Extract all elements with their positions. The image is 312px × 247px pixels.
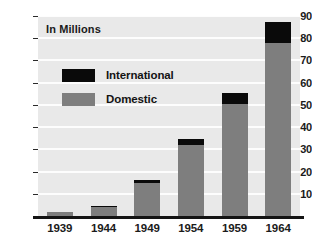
x-axis-tick-label-1964: 1964: [254, 222, 302, 234]
legend-item-domestic: Domestic: [62, 87, 174, 111]
bar-segment-domestic: [134, 183, 160, 216]
gridline: [38, 16, 300, 17]
bar-segment-domestic: [222, 104, 248, 216]
units-label: In Millions: [46, 23, 101, 35]
gridline: [38, 171, 300, 173]
bar-segment-international: [265, 22, 291, 43]
bar-1959: [222, 93, 248, 216]
legend-label-domestic: Domestic: [106, 93, 157, 105]
bar-1949: [134, 180, 160, 216]
legend-swatch-domestic-icon: [62, 93, 95, 106]
chart-legend: International Domestic: [62, 63, 174, 111]
bar-segment-international: [91, 206, 117, 207]
bar-segment-domestic: [178, 145, 204, 216]
bar-segment-domestic: [91, 207, 117, 216]
x-axis-tick-label-1959: 1959: [211, 222, 259, 234]
x-axis-tick-label-1949: 1949: [123, 222, 171, 234]
x-axis-tick-label-1944: 1944: [80, 222, 128, 234]
bar-segment-international: [222, 93, 248, 104]
x-axis-tick-label-1939: 1939: [36, 222, 84, 234]
bar-1954: [178, 139, 204, 216]
x-axis-line: [33, 216, 304, 219]
gridline: [38, 126, 300, 128]
legend-item-international: International: [62, 63, 174, 87]
bar-segment-international: [178, 139, 204, 145]
gridline: [38, 148, 300, 150]
bar-segment-international: [134, 180, 160, 182]
bar-1964: [265, 22, 291, 216]
legend-swatch-international-icon: [62, 69, 95, 82]
bar-chart: 102030405060708090 In Millions Internati…: [0, 0, 312, 247]
x-axis-tick-label-1954: 1954: [167, 222, 215, 234]
gridline: [38, 37, 300, 39]
gridline: [38, 193, 300, 195]
bar-1944: [91, 206, 117, 216]
bar-segment-domestic: [265, 43, 291, 216]
plot-area: In Millions International Domestic: [38, 16, 300, 216]
legend-label-international: International: [106, 69, 174, 81]
gridline: [38, 59, 300, 61]
